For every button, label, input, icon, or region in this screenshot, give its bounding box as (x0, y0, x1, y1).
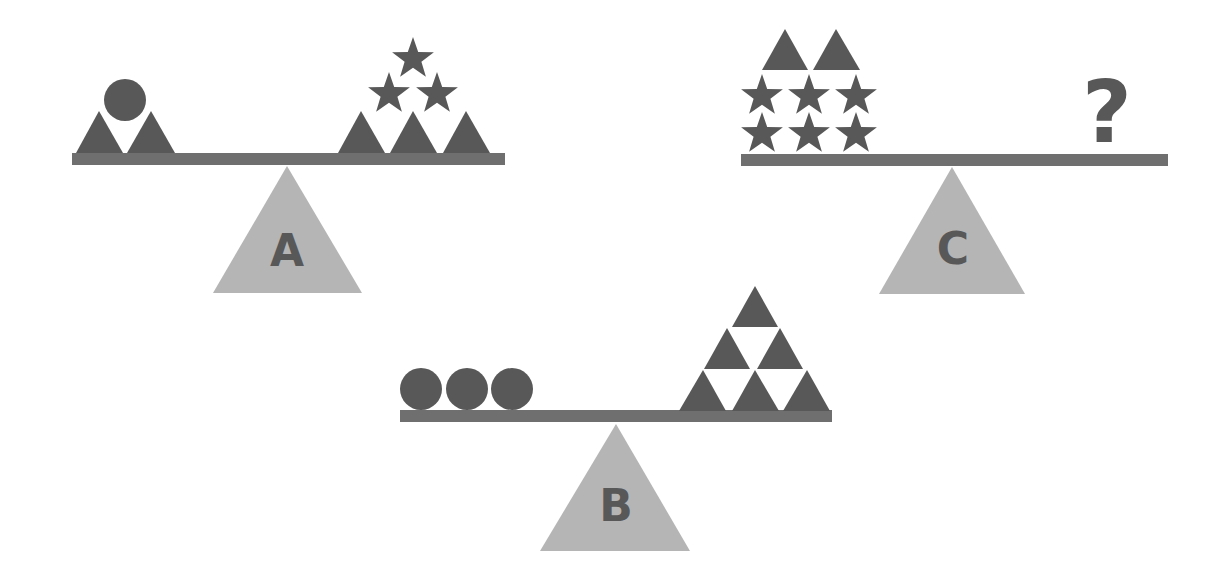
star-weight (416, 72, 458, 112)
fulcrum-c-label: C (937, 223, 969, 274)
scale-b: B (400, 286, 832, 551)
scale-a-left-pan (76, 79, 175, 153)
star-weight (788, 74, 830, 114)
circle-weight (446, 368, 488, 410)
beam-a (72, 153, 505, 165)
star-weight (835, 112, 877, 152)
triangle-weight (443, 111, 490, 153)
triangle-weight (762, 29, 808, 70)
scale-c-left-pan (741, 29, 877, 152)
triangle-weight (732, 370, 779, 411)
star-weight (788, 112, 830, 152)
scale-b-right-pan (679, 286, 830, 411)
circle-weight (400, 368, 442, 410)
fulcrum-a-label: A (270, 225, 304, 276)
scale-c: C ? (741, 29, 1168, 294)
circle-weight (104, 79, 146, 121)
scale-c-right-pan: ? (1082, 62, 1132, 162)
star-weight (741, 74, 783, 114)
beam-b (400, 410, 832, 422)
scale-a-right-pan (338, 37, 490, 153)
star-weight (368, 72, 410, 112)
triangle-weight (783, 370, 830, 411)
scale-a: A (72, 37, 505, 293)
triangle-weight (390, 111, 437, 153)
triangle-weight (679, 370, 726, 411)
star-weight (741, 112, 783, 152)
triangle-weight (813, 29, 860, 70)
fulcrum-b-label: B (599, 480, 633, 531)
scale-b-left-pan (400, 368, 533, 410)
balance-puzzle-diagram: A C ? (0, 0, 1224, 580)
star-weight (835, 74, 877, 114)
unknown-weight-question-mark: ? (1082, 62, 1132, 162)
triangle-weight (704, 328, 750, 369)
star-weight (392, 37, 434, 77)
triangle-weight (757, 328, 803, 369)
circle-weight (491, 368, 533, 410)
triangle-weight (732, 286, 778, 327)
triangle-weight (338, 111, 385, 153)
